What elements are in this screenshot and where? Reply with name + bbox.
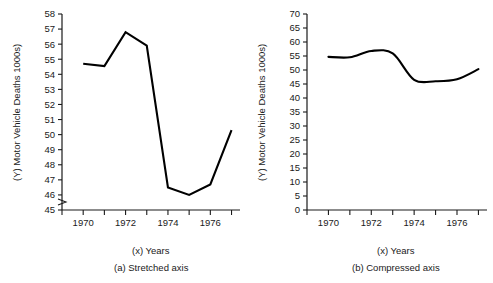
stretched-y-tick-label: 58 bbox=[44, 8, 55, 19]
stretched-y-tick-label: 51 bbox=[44, 114, 55, 125]
compressed-y-tick-label: 35 bbox=[289, 106, 300, 117]
compressed-y-tick-label: 65 bbox=[289, 22, 300, 33]
compressed-y-tick-label: 10 bbox=[289, 176, 300, 187]
stretched-axis-plot: 4546474849505152535455565758197019721974… bbox=[0, 0, 246, 240]
compressed-y-tick-label: 60 bbox=[289, 36, 300, 47]
compressed-axis-caption: (b) Compressed axis bbox=[352, 262, 440, 273]
stretched-x-tick-label: 1972 bbox=[115, 217, 136, 228]
stretched-y-tick-label: 52 bbox=[44, 99, 55, 110]
stretched-y-tick-label: 45 bbox=[44, 204, 55, 215]
stretched-y-tick-label: 54 bbox=[44, 69, 55, 80]
stretched-y-tick-label: 47 bbox=[44, 174, 55, 185]
figure-two-panel-line-charts: 4546474849505152535455565758197019721974… bbox=[0, 0, 493, 283]
compressed-x-tick-label: 1976 bbox=[446, 217, 467, 228]
stretched-y-tick-label: 49 bbox=[44, 144, 55, 155]
stretched-x-tick-label: 1970 bbox=[73, 217, 94, 228]
compressed-series-line bbox=[328, 50, 478, 82]
compressed-y-tick-label: 20 bbox=[289, 148, 300, 159]
compressed-y-tick-label: 50 bbox=[289, 64, 300, 75]
stretched-y-tick-label: 57 bbox=[44, 23, 55, 34]
compressed-y-tick-label: 25 bbox=[289, 134, 300, 145]
compressed-y-tick-label: 55 bbox=[289, 50, 300, 61]
compressed-axis-plot: 0510152025303540455055606570197019721974… bbox=[246, 0, 493, 240]
chart-panel-compressed-axis: 0510152025303540455055606570197019721974… bbox=[246, 0, 493, 283]
stretched-x-tick-label: 1974 bbox=[157, 217, 178, 228]
stretched-axis-y-label: (Y) Motor Vehicle Deaths 1000s) bbox=[11, 43, 22, 180]
compressed-y-tick-label: 30 bbox=[289, 120, 300, 131]
compressed-x-tick-label: 1970 bbox=[318, 217, 339, 228]
stretched-y-tick-label: 46 bbox=[44, 189, 55, 200]
stretched-axis-x-label: (x) Years bbox=[132, 245, 170, 256]
compressed-y-tick-label: 0 bbox=[295, 204, 300, 215]
compressed-axis-x-label: (x) Years bbox=[377, 245, 415, 256]
stretched-axis-caption: (a) Stretched axis bbox=[114, 262, 188, 273]
stretched-y-tick-label: 48 bbox=[44, 159, 55, 170]
compressed-y-tick-label: 40 bbox=[289, 92, 300, 103]
stretched-series-line bbox=[83, 32, 231, 195]
stretched-y-tick-label: 55 bbox=[44, 54, 55, 65]
compressed-y-tick-label: 45 bbox=[289, 78, 300, 89]
compressed-y-tick-label: 70 bbox=[289, 8, 300, 19]
compressed-y-tick-label: 15 bbox=[289, 162, 300, 173]
compressed-x-tick-label: 1974 bbox=[404, 217, 425, 228]
stretched-y-tick-label: 53 bbox=[44, 84, 55, 95]
stretched-x-tick-label: 1976 bbox=[200, 217, 221, 228]
compressed-axis-y-label: (Y) Motor Vehicle Deaths 1000s) bbox=[256, 43, 267, 180]
compressed-y-tick-label: 5 bbox=[295, 190, 300, 201]
stretched-y-tick-label: 56 bbox=[44, 39, 55, 50]
chart-panel-stretched-axis: 4546474849505152535455565758197019721974… bbox=[0, 0, 246, 283]
compressed-x-tick-label: 1972 bbox=[361, 217, 382, 228]
stretched-y-tick-label: 50 bbox=[44, 129, 55, 140]
